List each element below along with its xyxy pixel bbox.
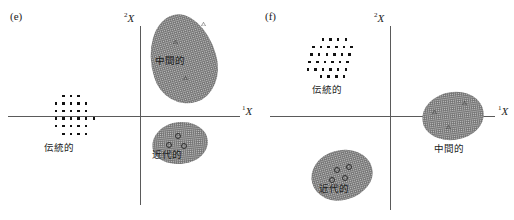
x-axis-label-e: 1X — [242, 104, 252, 117]
marker-triangle-e-3 — [183, 76, 188, 80]
panel-f: (f) 1X 2X 伝統的 中間的 近代的 — [257, 0, 514, 220]
data-point-dot — [55, 125, 58, 128]
marker-triangle-f-2 — [462, 101, 467, 105]
y-axis-letter-f: X — [378, 12, 385, 24]
data-point-dot — [70, 95, 73, 98]
data-point-dot — [326, 53, 329, 56]
data-point-dot — [85, 110, 88, 113]
marker-circle-f-1 — [334, 167, 340, 173]
data-point-dot — [335, 75, 338, 78]
y-axis-label-f: 2X — [374, 11, 384, 24]
data-point-dot — [77, 102, 80, 105]
marker-circle-e-1 — [175, 133, 181, 139]
data-point-dot — [77, 117, 80, 120]
data-point-dot — [62, 133, 65, 136]
data-point-dot — [329, 68, 332, 71]
data-point-dot — [318, 53, 321, 56]
cluster-dots-traditional-e — [52, 92, 94, 140]
data-point-dot — [77, 95, 80, 98]
data-point-dot — [320, 46, 323, 49]
data-point-dot — [70, 133, 73, 136]
data-point-dot — [322, 38, 325, 41]
data-point-dot — [93, 117, 96, 120]
cluster-label-traditional-e: 伝統的 — [44, 140, 74, 154]
data-point-dot — [62, 117, 65, 120]
data-point-dot — [307, 68, 310, 71]
data-point-dot — [85, 125, 88, 128]
cluster-label-modern-e: 近代的 — [152, 147, 182, 161]
data-point-dot — [312, 46, 315, 49]
data-point-dot — [345, 68, 348, 71]
data-point-dot — [343, 75, 346, 78]
data-point-dot — [350, 46, 353, 49]
data-point-dot — [343, 46, 346, 49]
marker-circle-f-2 — [346, 164, 352, 170]
data-point-dot — [327, 75, 330, 78]
panel-e: (e) 1X 2X 中間的 近代的 伝統的 — [0, 0, 257, 220]
data-point-dot — [62, 102, 65, 105]
data-point-dot — [314, 68, 317, 71]
data-point-dot — [62, 125, 65, 128]
data-point-dot — [62, 95, 65, 98]
y-axis-label-e: 2X — [124, 11, 134, 24]
x-axis-label-f: 1X — [498, 104, 508, 117]
data-point-dot — [337, 38, 340, 41]
data-point-dot — [85, 117, 88, 120]
data-point-dot — [85, 133, 88, 136]
data-point-dot — [345, 38, 348, 41]
data-point-dot — [308, 61, 311, 64]
marker-triangle-e-2 — [173, 40, 178, 44]
panel-label-f: (f) — [265, 10, 276, 22]
cluster-dots-traditional-f — [304, 36, 360, 82]
data-point-dot — [70, 110, 73, 113]
marker-triangle-e-1 — [201, 22, 206, 26]
x-axis-letter-f: X — [502, 105, 509, 117]
x-axis-line-e — [8, 116, 240, 117]
data-point-dot — [329, 38, 332, 41]
data-point-dot — [77, 110, 80, 113]
data-point-dot — [341, 53, 344, 56]
data-point-dot — [55, 110, 58, 113]
data-point-dot — [62, 110, 65, 113]
data-point-dot — [339, 61, 342, 64]
data-point-dot — [348, 53, 351, 56]
data-point-dot — [310, 53, 313, 56]
y-axis-letter-e: X — [128, 12, 135, 24]
panel-label-e: (e) — [10, 10, 22, 22]
cluster-label-intermediate-e: 中間的 — [155, 53, 185, 67]
data-point-dot — [55, 117, 58, 120]
data-point-dot — [346, 61, 349, 64]
marker-triangle-f-3 — [446, 125, 451, 129]
y-axis-line-e — [140, 26, 141, 205]
data-point-dot — [337, 68, 340, 71]
data-point-dot — [85, 102, 88, 105]
data-point-dot — [335, 46, 338, 49]
data-point-dot — [320, 75, 323, 78]
data-point-dot — [331, 61, 334, 64]
data-point-dot — [324, 61, 327, 64]
marker-triangle-f-1 — [432, 110, 437, 114]
cluster-label-modern-f: 近代的 — [319, 181, 349, 195]
data-point-dot — [55, 102, 58, 105]
data-point-dot — [77, 125, 80, 128]
data-point-dot — [333, 53, 336, 56]
data-point-dot — [70, 125, 73, 128]
cluster-blob-intermediate-f — [419, 88, 487, 144]
data-point-dot — [322, 68, 325, 71]
data-point-dot — [77, 133, 80, 136]
data-point-dot — [70, 102, 73, 105]
data-point-dot — [327, 46, 330, 49]
x-axis-letter-e: X — [246, 105, 253, 117]
cluster-label-intermediate-f: 中間的 — [434, 141, 464, 155]
y-axis-line-f — [390, 26, 391, 210]
data-point-dot — [316, 61, 319, 64]
cluster-label-traditional-f: 伝統的 — [312, 82, 342, 96]
data-point-dot — [70, 117, 73, 120]
